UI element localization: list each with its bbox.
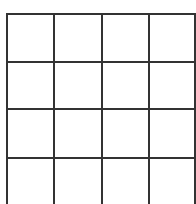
- grid-cell: [8, 63, 53, 108]
- grid-cell: [103, 110, 148, 157]
- grid-horizontal-line: [6, 61, 196, 63]
- grid-horizontal-line: [6, 108, 196, 110]
- grid-cell: [55, 15, 101, 61]
- grid-cell: [150, 110, 194, 157]
- grid-cell: [55, 110, 101, 157]
- grid-cell: [8, 110, 53, 157]
- grid-cell: [150, 159, 194, 204]
- grid-cell: [103, 63, 148, 108]
- grid-horizontal-line: [6, 13, 196, 15]
- grid-cell: [8, 15, 53, 61]
- grid-cell: [103, 15, 148, 61]
- grid-cell: [150, 63, 194, 108]
- grid-cell: [55, 159, 101, 204]
- grid-4x4: [0, 0, 196, 204]
- grid-cell: [55, 63, 101, 108]
- grid-cell: [8, 159, 53, 204]
- grid-cell: [103, 159, 148, 204]
- grid-cell: [150, 15, 194, 61]
- grid-horizontal-line: [6, 157, 196, 159]
